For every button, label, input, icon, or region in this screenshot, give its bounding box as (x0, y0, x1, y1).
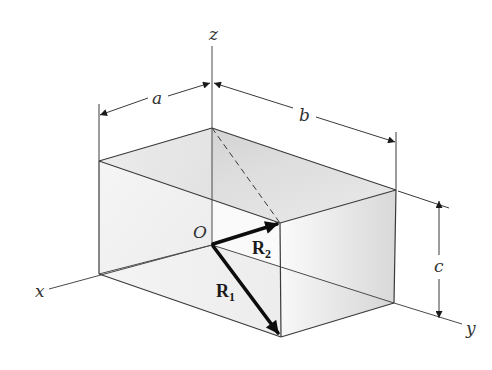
dimension-c (398, 191, 449, 318)
y-axis (394, 303, 462, 324)
dimension-a-label: a (152, 88, 162, 108)
dimension-b-label: b (299, 105, 310, 125)
y-axis-label: y (465, 318, 476, 338)
diagram-canvas: z x y O a b c R1 R2 (0, 0, 492, 370)
x-axis-label: x (35, 281, 45, 301)
origin-label: O (193, 222, 207, 242)
box-vector-diagram: z x y O a b c R1 R2 (0, 0, 492, 370)
dimension-c-label: c (434, 256, 444, 276)
z-axis-label: z (208, 24, 219, 44)
